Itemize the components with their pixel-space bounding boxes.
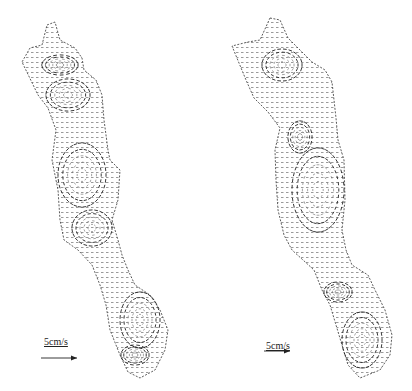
velocity-vector (377, 344, 378, 347)
velocity-vector (288, 138, 289, 142)
vector-field-plots (0, 0, 412, 391)
velocity-vector (88, 242, 91, 243)
velocity-vector (155, 324, 156, 327)
velocity-vector (298, 179, 299, 182)
flow-field-figure: 5cm/s 5cm/s (0, 0, 412, 391)
velocity-vector (105, 179, 106, 183)
velocity-vector (299, 121, 303, 122)
velocity-vector (333, 282, 337, 283)
velocity-vector (130, 345, 134, 346)
velocity-vector (159, 312, 160, 316)
velocity-vector (136, 345, 140, 346)
velocity-vector (292, 179, 293, 183)
velocity-vector (136, 365, 140, 366)
velocity-vector (46, 91, 47, 95)
velocity-vector (381, 332, 382, 336)
velocity-vector (288, 132, 289, 136)
left-scale-arrow (41, 356, 77, 361)
right-scale-label: 5cm/s (266, 340, 290, 351)
velocity-vector (377, 332, 378, 335)
velocity-vector (78, 207, 82, 208)
velocity-vector (58, 167, 59, 171)
velocity-vector (300, 149, 303, 150)
velocity-vector (78, 143, 82, 144)
velocity-vector (93, 242, 96, 243)
velocity-vector (53, 74, 57, 75)
velocity-vector (300, 124, 303, 125)
velocity-vector (290, 132, 291, 135)
velocity-vector (339, 282, 343, 283)
velocity-vector (72, 229, 73, 233)
velocity-vector (333, 302, 337, 303)
velocity-vector (105, 167, 106, 171)
velocity-vector (93, 214, 96, 215)
velocity-vector (298, 198, 299, 201)
velocity-vector (46, 95, 47, 99)
velocity-vector (58, 179, 59, 183)
velocity-vector (339, 302, 343, 303)
velocity-vector (290, 139, 291, 142)
velocity-vector (299, 153, 303, 154)
velocity-vector (71, 110, 75, 111)
velocity-vector (155, 312, 156, 315)
right-panel (232, 18, 392, 378)
left-panel (22, 22, 168, 378)
velocity-vector (159, 324, 160, 328)
velocity-vector (82, 143, 86, 144)
velocity-vector (100, 179, 101, 182)
velocity-vector (88, 214, 91, 215)
velocity-vector (100, 168, 101, 171)
left-scale-label: 5cm/s (44, 336, 68, 347)
velocity-vector (292, 198, 293, 202)
velocity-vector (53, 55, 57, 56)
velocity-vector (381, 344, 382, 348)
right-domain-outline (232, 18, 392, 378)
left-domain-outline (22, 22, 168, 378)
velocity-vector (82, 207, 86, 208)
velocity-vector (71, 79, 75, 80)
velocity-vector (72, 224, 73, 228)
velocity-vector (130, 365, 134, 366)
